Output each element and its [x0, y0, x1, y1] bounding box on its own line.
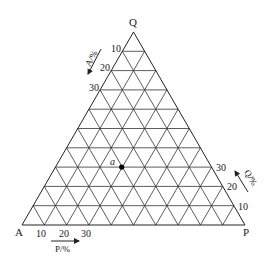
grid-line-a	[122, 51, 222, 225]
bottom-axis-label: P/%	[55, 244, 71, 254]
vertex-label-top: Q	[129, 16, 137, 28]
bottom-tick-30: 30	[81, 228, 91, 239]
right-tick-10: 10	[238, 201, 248, 212]
grid-line-a	[78, 129, 134, 226]
vertex-label-right: P	[243, 226, 249, 238]
vertex-label-left: A	[15, 226, 23, 238]
grid-line-p	[134, 129, 190, 226]
grid-line-p	[223, 206, 234, 225]
bottom-tick-20: 20	[59, 228, 69, 239]
bottom-tick-10: 10	[36, 228, 46, 239]
point-a-marker	[119, 165, 124, 170]
left-tick-10: 10	[111, 43, 121, 54]
point-a-label: a	[110, 156, 115, 167]
grid-line-p	[44, 51, 144, 225]
grid-line-a	[33, 206, 44, 225]
right-tick-30: 30	[216, 162, 226, 173]
right-tick-20: 20	[227, 181, 237, 192]
left-tick-30: 30	[89, 82, 99, 93]
ternary-grid	[33, 51, 234, 225]
grid-line-p	[178, 167, 211, 225]
grid-line-p	[89, 90, 167, 225]
grid-line-a	[55, 167, 88, 225]
ternary-diagram: Q A P 10 20 30 10 20 30 10 20 30 A/% P/%…	[0, 0, 269, 266]
right-axis-label: Q/%	[242, 168, 259, 188]
left-axis-label: A/%	[83, 48, 100, 68]
left-tick-20: 20	[100, 62, 110, 73]
